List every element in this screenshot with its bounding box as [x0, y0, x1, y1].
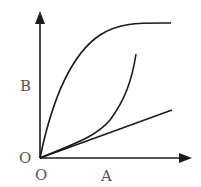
origin-label-x: O	[35, 166, 47, 184]
x-axis-label: A	[100, 167, 112, 185]
x-axis-arrow-icon	[179, 153, 192, 163]
saturating-curve	[40, 23, 171, 158]
y-axis-arrow-icon	[35, 11, 45, 24]
graph: B O O A	[0, 0, 201, 187]
linear-line	[40, 110, 172, 158]
origin-label-y: O	[19, 149, 31, 167]
y-axis-label: B	[20, 77, 31, 95]
